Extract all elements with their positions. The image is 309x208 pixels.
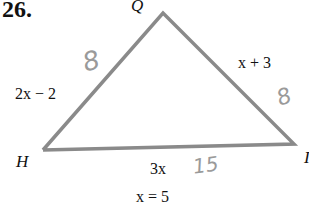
handwritten-hi-value: 15 xyxy=(191,151,220,178)
side-hi-expression: 3x xyxy=(150,160,166,178)
side-hq-expression: 2x − 2 xyxy=(15,85,56,103)
vertex-label-h: H xyxy=(16,152,28,172)
side-qi-expression: x + 3 xyxy=(238,54,271,72)
vertex-label-i: I xyxy=(304,148,309,168)
vertex-label-q: Q xyxy=(131,0,143,16)
solution-text: x = 5 xyxy=(136,188,169,206)
